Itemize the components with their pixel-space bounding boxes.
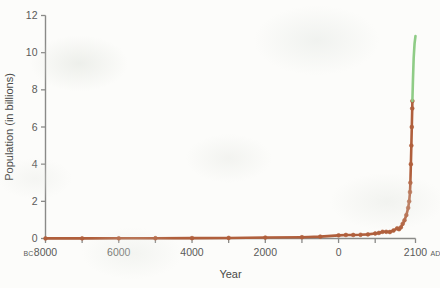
data-point-marker — [337, 233, 341, 237]
data-point-marker — [406, 206, 410, 210]
data-point-marker — [408, 181, 412, 185]
y-axis-tick-label: 4 — [32, 158, 38, 170]
x-axis-title: Year — [219, 268, 242, 280]
y-axis-title: Population (in billions) — [3, 73, 15, 181]
x-axis-tick-label: 2000 — [254, 246, 278, 258]
x-axis-tick-label: 2100 — [404, 246, 428, 258]
chart-canvas: 024681012800060004000200002100BCADYearPo… — [0, 0, 440, 288]
population-growth-chart: 024681012800060004000200002100BCADYearPo… — [0, 0, 440, 288]
data-point-marker — [190, 236, 194, 240]
x-axis-tick-label: 4000 — [180, 246, 204, 258]
data-point-marker — [366, 233, 370, 237]
data-point-marker — [388, 230, 392, 234]
data-point-marker — [359, 233, 363, 237]
data-point-marker — [373, 232, 377, 236]
data-point-marker — [377, 231, 381, 235]
data-point-marker — [403, 218, 407, 222]
data-point-marker — [117, 236, 121, 240]
x-axis-tick-label: 6000 — [107, 246, 131, 258]
data-point-marker — [381, 230, 385, 234]
y-axis-tick-label: 6 — [32, 121, 38, 133]
y-axis-tick-label: 10 — [26, 46, 38, 58]
data-point-marker — [227, 236, 231, 240]
series-line-historical — [46, 101, 413, 238]
y-axis-tick-label: 12 — [26, 9, 38, 21]
x-axis-tick-label: 0 — [336, 246, 342, 258]
data-point-marker — [401, 222, 405, 226]
data-point-marker — [410, 125, 414, 129]
x-axis-era-ad-label: AD — [430, 250, 440, 257]
data-point-marker — [318, 235, 322, 239]
y-axis-tick-label: 0 — [32, 232, 38, 244]
data-point-marker — [154, 236, 158, 240]
data-point-marker — [410, 107, 414, 111]
data-point-marker — [409, 144, 413, 148]
data-point-marker — [408, 190, 412, 194]
y-axis-tick-label: 2 — [32, 195, 38, 207]
data-point-marker — [263, 236, 267, 240]
data-point-marker — [44, 237, 48, 241]
data-point-marker — [80, 236, 84, 240]
x-axis-era-bc-label: BC — [23, 250, 33, 257]
data-point-marker — [407, 199, 411, 203]
x-axis-tick-label: 8000 — [34, 246, 58, 258]
series-line-projected — [412, 36, 415, 101]
data-point-marker — [351, 233, 355, 237]
data-point-marker — [300, 235, 304, 239]
data-point-marker — [384, 230, 388, 234]
data-point-marker — [404, 213, 408, 217]
data-point-marker — [409, 162, 413, 166]
data-point-marker — [399, 225, 403, 229]
y-axis-tick-label: 8 — [32, 83, 38, 95]
data-point-marker — [344, 233, 348, 237]
data-point-marker — [392, 229, 396, 233]
